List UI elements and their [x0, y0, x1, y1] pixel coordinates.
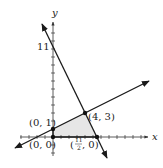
svg-text:(: ( [70, 139, 74, 150]
vertex-label-0-1: (0, 1) [29, 117, 56, 128]
vertex-4-3 [83, 111, 87, 115]
svg-text:, 0): , 0) [82, 139, 99, 150]
x-axis-label: x [152, 131, 158, 142]
vertex-label-11-2-0: ( 11 2 , 0) [70, 136, 99, 151]
vertex-label-4-3: (4, 3) [88, 111, 115, 122]
y-axis-label: y [51, 7, 58, 18]
vertex-label-0-0: (0, 0) [29, 139, 56, 150]
y-intercept-label: 11 [37, 41, 50, 52]
svg-text:2: 2 [77, 144, 81, 151]
feasible-region-diagram: x y 11 (0, 1) (0, 0) (4, 3) [0, 0, 163, 168]
